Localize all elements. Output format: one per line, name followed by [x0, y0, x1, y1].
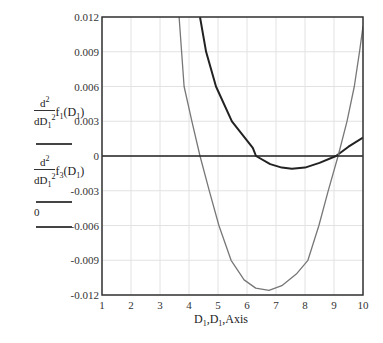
x-tick-label: 6: [244, 299, 250, 311]
x-tick-label: 2: [128, 299, 134, 311]
series-line-1: [179, 17, 363, 290]
y-tick-label: -0.006: [71, 220, 100, 232]
legend-line-zero: [36, 226, 72, 228]
legend-entry-zero: 0: [34, 206, 40, 218]
data-series: [102, 17, 363, 290]
y-tick-label: 0.006: [74, 81, 99, 93]
series-line-0: [200, 17, 363, 169]
x-tick-label: 5: [215, 299, 221, 311]
x-tick-label: 7: [273, 299, 279, 311]
legend-line-f1: [36, 143, 72, 145]
function-label: f3(D1): [55, 164, 84, 180]
legend-entry-f1: d2 dD12 f1(D1): [34, 93, 84, 133]
y-tick-label: -0.009: [71, 254, 100, 266]
y-tick-label: 0.012: [74, 11, 99, 23]
legend-entry-f3: d2 dD12 f3(D1): [34, 152, 84, 192]
x-axis-ticks: 12345678910: [99, 299, 369, 311]
derivative-fraction: d2 dD12: [34, 93, 55, 133]
x-tick-label: 1: [99, 299, 105, 311]
x-tick-label: 10: [358, 299, 370, 311]
derivative-fraction: d2 dD12: [34, 152, 55, 192]
x-tick-label: 8: [302, 299, 308, 311]
x-tick-label: 3: [157, 299, 163, 311]
function-label: f1(D1): [55, 105, 84, 121]
legend-line-f3: [36, 201, 72, 203]
y-tick-label: -0.012: [71, 289, 99, 301]
y-tick-label: 0: [94, 150, 100, 162]
x-axis-label: D1,D1,Axis: [194, 312, 248, 328]
x-tick-label: 4: [186, 299, 192, 311]
x-tick-label: 9: [331, 299, 337, 311]
y-tick-label: 0.009: [74, 46, 99, 58]
